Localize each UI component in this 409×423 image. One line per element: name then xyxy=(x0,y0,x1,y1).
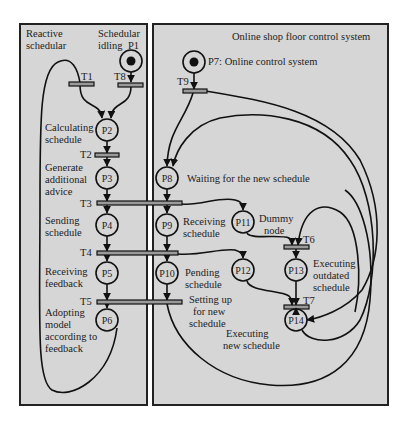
transition-t5 xyxy=(97,300,182,304)
p5-desc-line-2: feedback xyxy=(45,278,84,289)
place-p5: P5 xyxy=(96,262,118,284)
p4-desc-line-2: schedule xyxy=(45,227,82,238)
place-p8: P8 xyxy=(156,167,178,189)
p1-desc-line-1: Schedular xyxy=(98,28,140,39)
place-label: P2 xyxy=(102,125,113,136)
place-p10: P10 xyxy=(156,262,178,284)
place-p3: P3 xyxy=(96,167,118,189)
p1-desc-line-2: idling xyxy=(98,40,123,51)
p3-desc-line-2: additional xyxy=(45,174,87,185)
p10-desc-line-2: schedule xyxy=(185,279,222,290)
token xyxy=(190,58,199,67)
place-label: P12 xyxy=(235,265,251,276)
p6-desc-line-2: model xyxy=(45,319,71,330)
p10-desc-line-1: Pending xyxy=(185,267,220,278)
place-p2: P2 xyxy=(96,119,118,141)
p11-desc-line-1: Dummy xyxy=(259,213,294,224)
p9-desc-line-1: Receiving xyxy=(183,216,226,227)
place-p9: P9 xyxy=(156,214,178,236)
p8-desc: Waiting for the new schedule xyxy=(187,173,310,184)
transition-t9 xyxy=(183,89,207,93)
t6-label: T6 xyxy=(303,234,315,245)
p6-desc-line-4: feedback xyxy=(45,343,84,354)
token xyxy=(127,57,136,66)
petri-net-diagram: Reactive schedular Online shop floor con… xyxy=(0,0,409,423)
p14-desc-line-1: Executing xyxy=(226,328,269,339)
place-label: P8 xyxy=(162,173,173,184)
p3-desc-line-3: advice xyxy=(45,186,73,197)
p4-desc-line-1: Sending xyxy=(45,215,80,226)
place-p7 xyxy=(183,51,205,73)
t5-desc-line-2: for new xyxy=(193,306,226,317)
place-p11: P11 xyxy=(232,211,254,233)
t2-label: T2 xyxy=(80,149,92,160)
place-label: P6 xyxy=(102,315,113,326)
place-label: P9 xyxy=(162,220,173,231)
p7-desc: P7: Online control system xyxy=(208,56,317,67)
place-label: P10 xyxy=(159,268,175,279)
place-label: P3 xyxy=(102,173,113,184)
t8-label: T8 xyxy=(114,71,126,82)
p9-desc-line-2: schedule xyxy=(183,228,220,239)
place-p14: P14 xyxy=(285,309,307,331)
p1-id-label: P1 xyxy=(128,40,139,51)
p14-desc-line-2: new schedule xyxy=(223,340,280,351)
place-label: P4 xyxy=(102,220,113,231)
place-label: P11 xyxy=(235,217,250,228)
t4-label: T4 xyxy=(80,247,92,258)
transition-t4 xyxy=(97,251,178,255)
t5-desc-line-3: schedule xyxy=(189,318,226,329)
place-p13: P13 xyxy=(285,259,307,281)
t9-label: T9 xyxy=(177,76,189,87)
transition-t8 xyxy=(118,83,143,87)
p13-desc-line-2: outdated xyxy=(313,270,350,281)
p2-desc-line-2: schedule xyxy=(45,134,82,145)
transition-t3 xyxy=(97,201,182,205)
place-label: P5 xyxy=(102,268,113,279)
transition-t1 xyxy=(69,82,94,86)
p13-desc-line-3: schedule xyxy=(313,282,350,293)
p3-desc-line-1: Generate xyxy=(45,162,83,173)
p6-desc-line-1: Adopting xyxy=(45,307,85,318)
transition-t2 xyxy=(95,153,119,157)
t5-desc-line-1: Setting up xyxy=(189,294,232,305)
place-p6: P6 xyxy=(96,309,118,331)
left-panel-title-line-1: Reactive xyxy=(26,28,63,39)
transition-t6 xyxy=(284,245,309,249)
place-p12: P12 xyxy=(232,259,254,281)
p2-desc-line-1: Calculating xyxy=(45,122,94,133)
place-p4: P4 xyxy=(96,214,118,236)
p6-desc-line-3: according to xyxy=(45,331,97,342)
t1-label: T1 xyxy=(81,71,93,82)
t5-label: T5 xyxy=(80,296,92,307)
right-panel-title: Online shop floor control system xyxy=(232,31,370,42)
t7-label: T7 xyxy=(303,295,315,306)
p11-desc-line-2: node xyxy=(264,225,285,236)
p13-desc-line-1: Executing xyxy=(313,258,356,269)
p5-desc-line-1: Receiving xyxy=(45,266,88,277)
place-label: P13 xyxy=(288,265,304,276)
t3-label: T3 xyxy=(80,198,92,209)
left-panel-title-line-2: schedular xyxy=(26,40,67,51)
place-label: P14 xyxy=(288,315,304,326)
place-p1 xyxy=(120,50,142,72)
